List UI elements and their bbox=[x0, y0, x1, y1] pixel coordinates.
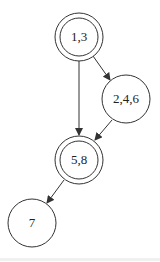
state-graph: 1,3 2,4,6 5,8 7 bbox=[0, 0, 160, 262]
edge-5-8-to-7 bbox=[47, 180, 64, 203]
node-label: 5,8 bbox=[71, 152, 87, 167]
node-label: 1,3 bbox=[71, 29, 87, 44]
node-5-8: 5,8 bbox=[55, 136, 103, 184]
scan-edge-artifact bbox=[0, 258, 160, 261]
edge-2-4-6-to-5-8 bbox=[95, 120, 112, 140]
node-2-4-6: 2,4,6 bbox=[102, 75, 150, 123]
node-1-3: 1,3 bbox=[55, 13, 103, 61]
node-7: 7 bbox=[8, 199, 56, 247]
node-label: 7 bbox=[29, 215, 36, 230]
edge-1-3-to-2-4-6 bbox=[93, 56, 110, 80]
node-label: 2,4,6 bbox=[113, 91, 140, 106]
